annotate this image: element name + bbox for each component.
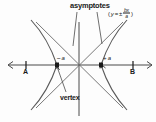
leader-line-asymptotes-right	[97, 12, 102, 44]
label-negative-a: – a	[57, 55, 65, 61]
hyperbola-diagram: asymptotes ( y = ± bx a ) – a + a A B ve…	[0, 0, 156, 122]
equation-y-variable: y	[111, 11, 114, 17]
label-positive-a: + a	[103, 55, 111, 61]
equation-fraction-denominator: a	[124, 14, 129, 19]
equation-open-paren: (	[108, 11, 110, 17]
label-asymptotes: asymptotes	[70, 2, 110, 10]
equation-fraction: bx a	[123, 8, 130, 19]
label-point-a: A	[23, 68, 28, 75]
equation-plus-minus-sign: ±	[119, 11, 122, 17]
label-vertex: vertex	[60, 94, 79, 101]
equation-close-paren: )	[131, 11, 133, 17]
leader-line-asymptotes-left	[73, 12, 77, 46]
label-point-b: B	[130, 68, 135, 75]
label-asymptote-equation: ( y = ± bx a )	[108, 8, 133, 19]
vertex-left-marker	[55, 63, 59, 68]
equation-equals-sign: =	[115, 11, 118, 17]
